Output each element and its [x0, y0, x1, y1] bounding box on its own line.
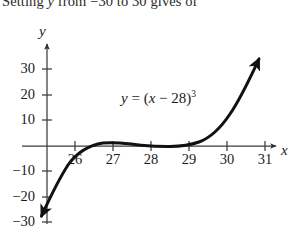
x-tick-label-29: 29 [176, 151, 202, 168]
caption-text: Setting y from −30 to 30 gives of [2, 0, 301, 9]
caption-after: from −30 to 30 gives of [54, 0, 197, 9]
y-axis-label: y [39, 23, 46, 40]
equation-exponent: 3 [191, 89, 196, 99]
equation-operator: = ( [128, 90, 149, 106]
x-axis-label: x [281, 142, 288, 159]
x-tick-label-31: 31 [252, 151, 278, 168]
y-tick-label-30: 30 [0, 60, 35, 77]
y-tick-label-neg30: −30 [0, 213, 35, 230]
figure-page: Setting y from −30 to 30 gives of [0, 0, 301, 234]
equation-middle: − 28) [155, 90, 191, 106]
cubic-graph-svg [0, 10, 301, 234]
y-tick-label-neg20: −20 [0, 188, 35, 205]
y-tick-label-10: 10 [0, 111, 35, 128]
graph-figure: y x 30 20 10 −10 −20 −30 26 27 28 29 30 … [0, 10, 301, 234]
equation-annotation: y = (x − 28)3 [121, 89, 196, 107]
x-tick-label-28: 28 [138, 151, 164, 168]
caption-before: Setting [2, 0, 48, 9]
y-tick-label-20: 20 [0, 86, 35, 103]
equation-lhs: y [121, 90, 128, 106]
x-tick-label-27: 27 [100, 151, 126, 168]
cubic-curve [42, 59, 260, 216]
y-tick-label-neg10: −10 [0, 162, 35, 179]
x-tick-label-30: 30 [214, 151, 240, 168]
x-tick-label-26: 26 [62, 151, 88, 168]
